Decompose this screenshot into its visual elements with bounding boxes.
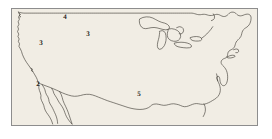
san-francisco-bay-detail <box>31 68 33 72</box>
region-label-2-southern-california-coast: 2 <box>36 81 40 88</box>
northern-lake-detail <box>211 14 214 21</box>
us-mainland-outline <box>18 12 251 109</box>
region-label-3-west: 3 <box>39 40 43 47</box>
lake-michigan <box>157 31 166 50</box>
region-label-5-gulf-texas: 5 <box>137 91 141 98</box>
cape-cod <box>234 49 239 53</box>
figure-root: 4 3 3 2 5 <box>0 0 272 139</box>
map-border-box <box>11 8 258 126</box>
long-island <box>227 55 235 58</box>
lake-superior <box>139 17 169 30</box>
us-outline-map <box>12 9 257 125</box>
region-label-4-north-central: 4 <box>63 14 67 21</box>
lake-ontario <box>190 37 202 42</box>
lake-erie <box>175 42 192 48</box>
florida-east-coast-detail <box>203 104 205 117</box>
st-lawrence-river <box>202 27 213 38</box>
mexico-interior-line <box>60 92 72 124</box>
gulf-of-california-east-shore <box>52 88 72 124</box>
baja-california-west-coast <box>38 83 52 124</box>
lake-huron <box>167 29 180 42</box>
region-label-3-central: 3 <box>86 31 90 38</box>
georgian-bay <box>177 27 184 34</box>
